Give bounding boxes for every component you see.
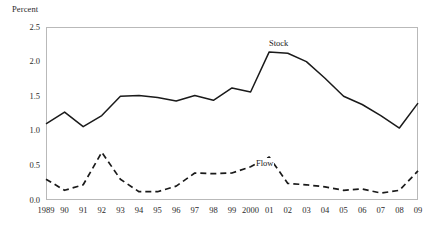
x-axis-tick-label: 05 [339,205,348,215]
x-axis-tick-label: 97 [191,205,200,215]
x-axis-tick-label: 07 [377,205,386,215]
x-axis-tick-label: 01 [265,205,274,215]
x-axis-tick-label: 98 [209,205,218,215]
x-axis-tick-label: 03 [302,205,311,215]
series-label-stock: Stock [268,38,289,48]
x-axis-tick-label: 96 [172,205,181,215]
x-axis-tick-label: 94 [135,205,144,215]
x-axis-tick-label: 91 [79,205,88,215]
x-axis-tick-label: 90 [60,205,69,215]
series-label-flow: Flow [255,158,274,168]
x-axis-tick-label: 2000 [242,205,259,215]
chart-lines [0,0,435,230]
x-axis-tick-label: 02 [284,205,293,215]
series-line-flow [46,152,418,193]
x-axis-tick-label: 93 [116,205,125,215]
x-axis-tick-label: 09 [414,205,423,215]
x-axis-tick-label: 92 [98,205,107,215]
x-axis-tick-label: 99 [228,205,237,215]
x-axis-tick-label: 1989 [38,205,55,215]
x-axis-tick-label: 95 [153,205,162,215]
x-axis-tick-label: 08 [395,205,404,215]
x-axis-tick-label: 04 [321,205,330,215]
chart-figure: Percent 0.00.51.01.52.02.5 1989909192939… [0,0,435,230]
series-line-stock [46,52,418,128]
x-axis-tick-label: 06 [358,205,367,215]
